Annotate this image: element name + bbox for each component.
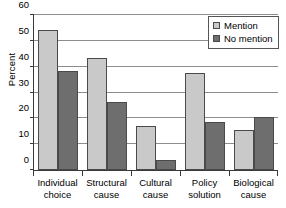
x-axis-label-line: Structural: [82, 177, 131, 189]
bar-mention: [234, 130, 254, 170]
y-tick-label: 40: [4, 50, 34, 61]
x-axis-labels: IndividualchoiceStructuralcauseCulturalc…: [33, 177, 278, 200]
bar-mention: [38, 30, 58, 170]
x-tick-cell: [131, 171, 180, 176]
y-axis-title: Percent: [6, 35, 17, 105]
legend-label-no-mention: No mention: [224, 32, 273, 45]
x-axis-label-line: solution: [180, 189, 229, 201]
x-axis-label: Policysolution: [180, 177, 229, 200]
x-tick-cell: [180, 171, 229, 176]
bar-chart: Percent 0102030405060 IndividualchoiceSt…: [0, 0, 286, 208]
x-axis-label-line: Biological: [229, 177, 278, 189]
x-axis-label: Individualchoice: [33, 177, 82, 200]
legend-label-mention: Mention: [224, 19, 258, 32]
x-axis-label: Biologicalcause: [229, 177, 278, 200]
bar-no-mention: [254, 117, 274, 170]
bar-group: [34, 15, 83, 170]
bar-mention: [136, 126, 156, 170]
bar-group: [83, 15, 132, 170]
y-tick-label: 10: [4, 128, 34, 139]
x-axis-label-line: cause: [229, 189, 278, 201]
x-tick-mark: [180, 171, 181, 176]
x-tick-mark: [277, 171, 278, 176]
x-tick-cell: [82, 171, 131, 176]
y-tick-label: 50: [4, 24, 34, 35]
x-tick-cell: [33, 171, 82, 176]
y-tick-label: 0: [4, 154, 34, 165]
x-tick-cell: [229, 171, 278, 176]
x-tick-mark: [229, 171, 230, 176]
x-axis-label-line: Cultural: [131, 177, 180, 189]
x-axis-label-line: cause: [131, 189, 180, 201]
x-axis-label-line: Policy: [180, 177, 229, 189]
legend: Mention No mention: [208, 16, 279, 49]
x-tick-mark: [82, 171, 83, 176]
bar-no-mention: [205, 122, 225, 170]
bar-mention: [185, 73, 205, 171]
x-tick-mark: [131, 171, 132, 176]
bar-no-mention: [58, 71, 78, 170]
x-axis-ticks: [33, 171, 278, 176]
legend-item: Mention: [213, 19, 273, 32]
bar-no-mention: [107, 102, 127, 170]
legend-swatch-no-mention-icon: [213, 35, 220, 42]
legend-item: No mention: [213, 32, 273, 45]
bar-group: [132, 15, 181, 170]
y-tick-label: 60: [4, 0, 34, 10]
x-tick-mark: [33, 171, 34, 176]
x-axis-label-line: Individual: [33, 177, 82, 189]
x-axis-label: Structuralcause: [82, 177, 131, 200]
y-tick-label: 20: [4, 102, 34, 113]
legend-swatch-mention-icon: [213, 22, 220, 29]
bar-no-mention: [156, 160, 176, 170]
x-axis-label: Culturalcause: [131, 177, 180, 200]
bar-mention: [87, 58, 107, 170]
x-axis-label-line: cause: [82, 189, 131, 201]
y-tick-label: 30: [4, 76, 34, 87]
x-axis-label-line: choice: [33, 189, 82, 201]
